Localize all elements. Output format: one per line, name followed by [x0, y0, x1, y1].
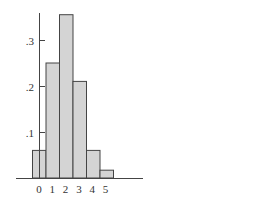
bar-5	[100, 170, 114, 178]
y-tick-label: .1	[26, 127, 34, 139]
x-tick-label: 5	[103, 183, 109, 195]
histogram-chart: .1.2.3 012345	[0, 0, 253, 210]
x-tick-label: 3	[76, 183, 82, 195]
x-tick-label: 2	[63, 183, 69, 195]
y-ticks: .1.2.3	[26, 35, 45, 139]
bar-1	[46, 63, 60, 178]
bar-4	[87, 150, 101, 178]
bars	[33, 15, 114, 178]
x-tick-label: 1	[50, 183, 56, 195]
bar-3	[73, 81, 87, 178]
y-tick-label: .3	[26, 35, 35, 47]
x-tick-label: 4	[89, 183, 95, 195]
x-tick-label: 0	[36, 183, 42, 195]
y-tick-label: .2	[26, 81, 34, 93]
bar-2	[60, 15, 74, 178]
x-tick-labels: 012345	[36, 183, 109, 195]
